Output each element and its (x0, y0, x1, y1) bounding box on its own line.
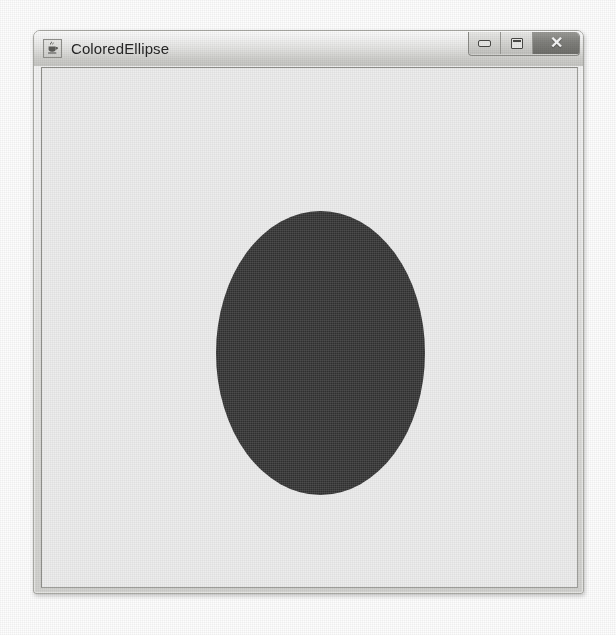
close-icon: ✕ (550, 35, 563, 51)
maximize-icon (511, 38, 523, 49)
window-title: ColoredEllipse (71, 39, 169, 58)
minimize-button[interactable] (469, 32, 501, 54)
shape-texture-overlay (216, 211, 425, 495)
colored-ellipse-shape (216, 211, 425, 495)
minimize-icon (478, 40, 491, 47)
close-button[interactable]: ✕ (533, 32, 579, 54)
title-bar[interactable]: ColoredEllipse ✕ (34, 31, 583, 66)
maximize-button[interactable] (501, 32, 533, 54)
window-controls: ✕ (468, 32, 580, 56)
client-area (41, 67, 578, 588)
drawing-canvas[interactable] (42, 68, 577, 587)
application-window: ColoredEllipse ✕ (33, 30, 584, 594)
java-coffee-cup-icon[interactable] (43, 39, 62, 58)
title-bar-left-group: ColoredEllipse (43, 36, 169, 60)
